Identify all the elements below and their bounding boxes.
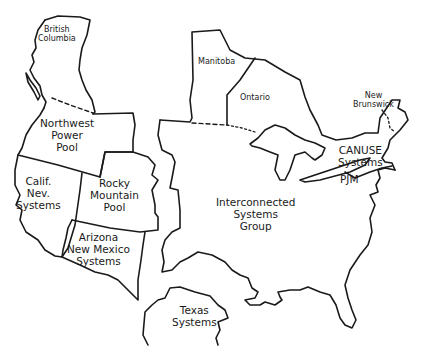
label-interconnected-systems-group: Interconnected Systems Group [216,197,295,232]
label-rocky-mountain-pool: Rocky Mountain Pool [90,178,139,213]
border-canada-us-west [192,123,227,125]
label-calif-nev-systems: Calif. Nev. Systems [16,176,61,211]
label-new-brunswick: New Brunswick [353,92,394,110]
label-arizona-new-mexico-systems: Arizona New Mexico Systems [67,232,130,267]
label-canuse-systems: CANUSE Systems [338,145,383,169]
map-outlines [0,0,425,347]
label-texas-systems: Texas Systems [172,305,217,329]
label-northwest-power-pool: Northwest Power Pool [40,118,94,153]
border-bc-us [52,98,93,113]
label-manitoba: Manitoba [198,58,235,67]
power-systems-map: British Columbia Northwest Power Pool Ca… [0,0,425,347]
great-lakes [250,125,325,180]
label-british-columbia: British Columbia [38,26,76,44]
border-canada-us-east [227,125,255,132]
label-ontario: Ontario [240,94,270,103]
border-manitoba-ontario [227,58,255,125]
label-pjm: PJM [340,174,359,186]
